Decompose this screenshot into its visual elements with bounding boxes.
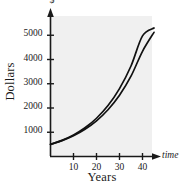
x-tick-label: 40 [132, 162, 154, 172]
x-axis-title: Years [50, 170, 154, 185]
y-tick-label: 4000 [13, 53, 43, 63]
y-tick-label: 5000 [13, 28, 43, 38]
plot-background [50, 16, 152, 156]
y-tick-label: 3000 [13, 77, 43, 87]
x-tick-label: 20 [86, 162, 108, 172]
y-axis-arrow-label: $ [45, 0, 59, 5]
chart-figure: $ time Dollars Years 1000200030004000500… [0, 0, 182, 190]
y-tick-label: 1000 [13, 125, 43, 135]
x-tick-label: 30 [109, 162, 131, 172]
x-tick-label: 10 [63, 162, 85, 172]
x-axis-arrow-label: time [162, 150, 178, 160]
y-tick-label: 2000 [13, 101, 43, 111]
